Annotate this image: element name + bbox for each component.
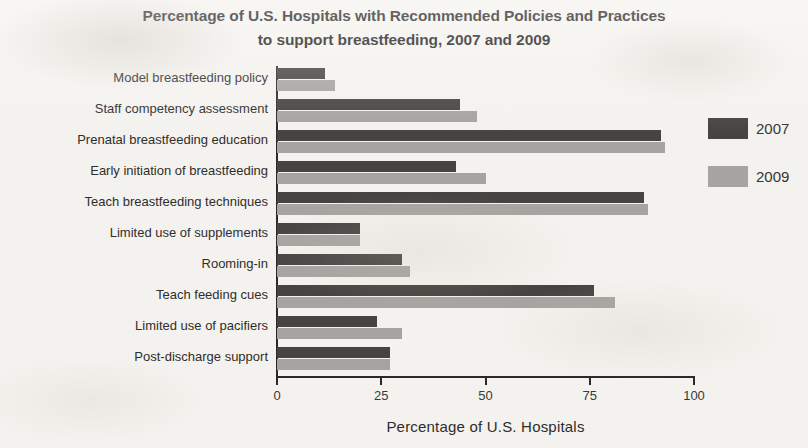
chart-title-line-2: to support breastfeeding, 2007 and 2009 — [0, 28, 808, 52]
bar-chart: Percentage of U.S. Hospitals with Recomm… — [0, 0, 808, 448]
y-axis-label-9: Post-discharge support — [134, 349, 268, 364]
bar-row: Prenatal breastfeeding education — [277, 130, 694, 161]
plot-area: 0255075100 Model breastfeeding policySta… — [277, 66, 694, 376]
bar-2007-8 — [277, 316, 377, 327]
bar-2007-9 — [277, 347, 390, 358]
bar-2009-0 — [277, 80, 335, 91]
bar-row: Staff competency assessment — [277, 99, 694, 130]
bar-row: Early initiation of breastfeeding — [277, 161, 694, 192]
bar-2009-6 — [277, 266, 410, 277]
bar-2007-2 — [277, 130, 661, 141]
x-tick-label-50: 50 — [478, 388, 492, 403]
legend-label-2007: 2007 — [756, 118, 789, 139]
y-axis-label-1: Staff competency assessment — [95, 101, 268, 116]
y-axis-label-2: Prenatal breastfeeding education — [77, 132, 268, 147]
bar-2007-5 — [277, 223, 360, 234]
x-tick-label-25: 25 — [374, 388, 388, 403]
bar-2009-9 — [277, 359, 390, 370]
bar-2007-4 — [277, 192, 644, 203]
y-axis-label-5: Limited use of supplements — [110, 225, 268, 240]
bar-2009-4 — [277, 204, 648, 215]
x-tick-label-75: 75 — [583, 388, 597, 403]
bar-2009-8 — [277, 328, 402, 339]
bar-2007-1 — [277, 99, 460, 110]
legend-swatch-2007 — [708, 118, 748, 139]
x-tick-label-0: 0 — [273, 388, 280, 403]
y-axis-label-8: Limited use of pacifiers — [135, 318, 268, 333]
bar-row: Teach feeding cues — [277, 285, 694, 316]
bar-row: Model breastfeeding policy — [277, 68, 694, 99]
y-axis-label-3: Early initiation of breastfeeding — [90, 163, 268, 178]
y-axis-label-7: Teach feeding cues — [156, 287, 268, 302]
bar-2007-3 — [277, 161, 456, 172]
x-tick-label-100: 100 — [683, 388, 705, 403]
y-axis-label-4: Teach breastfeeding techniques — [84, 194, 268, 209]
bar-2009-1 — [277, 111, 477, 122]
legend-swatch-2009 — [708, 166, 748, 187]
bar-row: Post-discharge support — [277, 347, 694, 378]
bar-row: Limited use of supplements — [277, 223, 694, 254]
bar-2009-3 — [277, 173, 486, 184]
chart-title: Percentage of U.S. Hospitals with Recomm… — [0, 4, 808, 52]
bar-2009-2 — [277, 142, 665, 153]
bar-row: Limited use of pacifiers — [277, 316, 694, 347]
legend-entry-2007[interactable]: 2007 — [708, 112, 804, 160]
chart-title-line-1: Percentage of U.S. Hospitals with Recomm… — [143, 7, 666, 24]
legend-entry-2009[interactable]: 2009 — [708, 160, 804, 208]
bar-row: Teach breastfeeding techniques — [277, 192, 694, 223]
y-axis-label-6: Rooming-in — [202, 256, 268, 271]
chart-legend: 20072009 — [708, 112, 804, 208]
bar-2009-5 — [277, 235, 360, 246]
legend-label-2009: 2009 — [756, 166, 789, 187]
bar-2009-7 — [277, 297, 615, 308]
y-axis-label-0: Model breastfeeding policy — [113, 70, 268, 85]
bar-2007-7 — [277, 285, 594, 296]
bar-2007-0 — [277, 68, 325, 79]
bar-row: Rooming-in — [277, 254, 694, 285]
x-axis-title: Percentage of U.S. Hospitals — [277, 418, 694, 435]
bar-2007-6 — [277, 254, 402, 265]
